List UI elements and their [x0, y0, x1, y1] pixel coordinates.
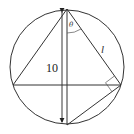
right-side-l	[67, 9, 121, 85]
theta-label: θ	[69, 21, 74, 29]
length-label: 10	[46, 61, 58, 75]
theta-arc	[67, 29, 81, 33]
lower-right-chord	[67, 85, 121, 125]
left-side	[13, 9, 67, 85]
side-l-label: l	[101, 43, 104, 55]
circle-geometry-diagram: θ l 10	[0, 0, 134, 134]
right-angle-marker	[106, 76, 115, 92]
